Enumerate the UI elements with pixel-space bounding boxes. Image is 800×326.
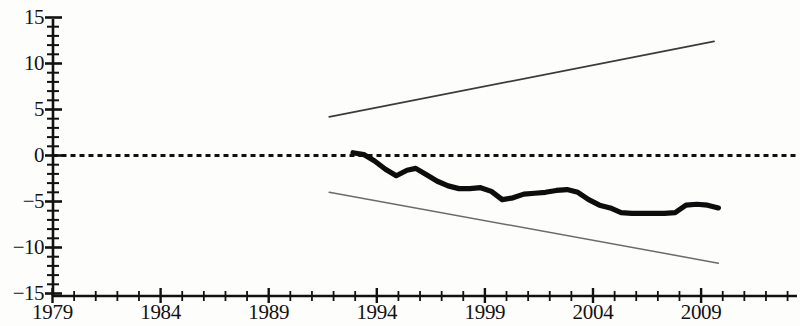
y-axis-tick-label: 5 bbox=[34, 97, 44, 122]
lower-confidence-bound-line bbox=[329, 192, 718, 263]
y-axis-tick-label: 0 bbox=[34, 143, 44, 168]
x-axis-tick-label: 2009 bbox=[671, 300, 731, 325]
y-axis-tick-label: −10 bbox=[13, 235, 44, 260]
y-axis-tick-label: −5 bbox=[23, 189, 44, 214]
x-axis-tick-label: 1999 bbox=[455, 300, 515, 325]
y-axis-tick-label: 10 bbox=[24, 51, 44, 76]
x-axis-tick-label: 1984 bbox=[131, 300, 191, 325]
y-axis-tick-label: 15 bbox=[24, 5, 44, 30]
x-axis-tick-label: 1994 bbox=[347, 300, 407, 325]
x-axis-tick-label: 2004 bbox=[563, 300, 623, 325]
chart-plot-area bbox=[0, 0, 800, 326]
upper-confidence-bound-line bbox=[329, 41, 714, 116]
x-axis-tick-label: 1989 bbox=[239, 300, 299, 325]
x-axis-tick-label: 1979 bbox=[23, 300, 83, 325]
chart-container: 151050−5−10−15 1979198419891994199920042… bbox=[0, 0, 800, 326]
main-estimate-line bbox=[353, 153, 718, 214]
